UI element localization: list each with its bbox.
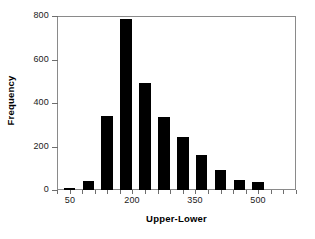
- x-axis-tick-label: 200: [117, 196, 147, 205]
- histogram-bar: [64, 188, 76, 190]
- x-axis-tick-mark: [208, 190, 209, 194]
- histogram-bar: [177, 137, 189, 190]
- x-axis-tick-mark: [258, 190, 259, 194]
- histogram-bar: [101, 116, 113, 190]
- x-axis-tick-mark: [283, 190, 284, 194]
- y-axis-tick-label: 400: [33, 98, 49, 107]
- x-axis-tick-mark: [296, 190, 297, 194]
- x-axis-tick-mark: [70, 190, 71, 194]
- x-axis-tick-mark: [107, 190, 108, 194]
- x-axis-tick-mark: [195, 190, 196, 194]
- x-axis-tick-mark: [183, 190, 184, 194]
- y-axis-tick-mark: [52, 190, 58, 191]
- histogram-chart: 800600400200050200350500 Upper-Lower Fre…: [0, 0, 315, 239]
- x-axis-tick-mark: [82, 190, 83, 194]
- histogram-bar: [252, 182, 264, 190]
- y-axis-tick-label: 600: [33, 55, 49, 64]
- histogram-bar: [139, 83, 151, 190]
- histogram-bar: [83, 181, 95, 190]
- histogram-bar: [234, 180, 246, 190]
- x-axis-tick-mark: [132, 190, 133, 194]
- y-axis-tick-label: 800: [33, 11, 49, 20]
- x-axis-tick-mark: [120, 190, 121, 194]
- histogram-bar: [120, 19, 132, 190]
- histogram-bar: [196, 155, 208, 190]
- x-axis-tick-mark: [57, 190, 58, 194]
- x-axis-tick-label: 50: [55, 196, 85, 205]
- x-axis-tick-mark: [145, 190, 146, 194]
- histogram-bar: [215, 170, 227, 190]
- y-axis-tick-label: 0: [44, 185, 49, 194]
- x-axis-tick-label: 500: [243, 196, 273, 205]
- x-axis-tick-mark: [271, 190, 272, 194]
- x-axis-tick-mark: [233, 190, 234, 194]
- histogram-bar: [158, 117, 170, 190]
- y-axis-tick-label: 200: [33, 142, 49, 151]
- bars-layer: [57, 16, 296, 190]
- x-axis-tick-mark: [221, 190, 222, 194]
- x-axis-tick-mark: [246, 190, 247, 194]
- y-axis-title: Frequency: [5, 66, 16, 136]
- x-axis-tick-label: 350: [180, 196, 210, 205]
- x-axis-tick-mark: [170, 190, 171, 194]
- x-axis-tick-mark: [158, 190, 159, 194]
- x-axis-tick-mark: [95, 190, 96, 194]
- x-axis-title: Upper-Lower: [57, 213, 296, 224]
